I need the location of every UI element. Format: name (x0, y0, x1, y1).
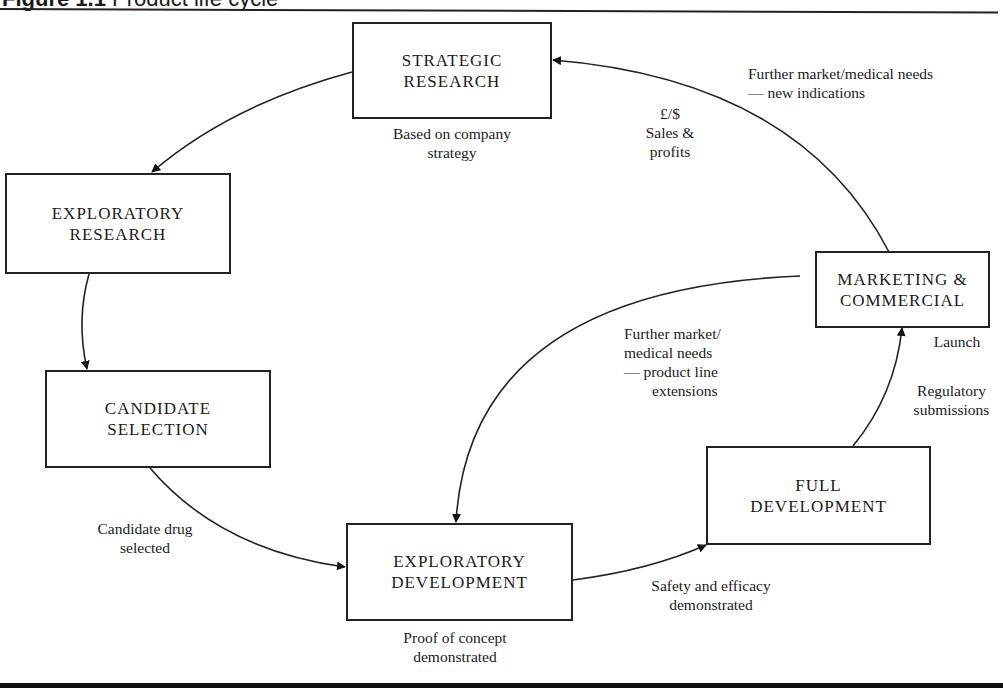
node-strategic-research: STRATEGIC RESEARCH (352, 22, 552, 119)
annotation-line: Launch (922, 332, 992, 351)
annotation-proof-of-concept: Proof of concept demonstrated (380, 628, 530, 666)
node-candidate-selection: CANDIDATE SELECTION (45, 370, 271, 468)
annotation-regulatory-submissions: Regulatory submissions (900, 381, 1003, 419)
annotation-line: Regulatory (900, 381, 1003, 400)
annotation-company-strategy: Based on company strategy (372, 124, 532, 162)
annotation-safety-efficacy: Safety and efficacy demonstrated (636, 576, 786, 614)
annotation-line: £/$ (640, 104, 700, 123)
node-label: STRATEGIC (402, 50, 503, 71)
annotation-line: extensions (624, 381, 721, 400)
annotation-line: — product line (624, 362, 721, 381)
annotation-line: demonstrated (636, 595, 786, 614)
node-label: CANDIDATE (105, 398, 211, 419)
annotation-new-indications: Further market/medical needs — new indic… (748, 64, 933, 102)
arrow-full-to-marketing (853, 328, 902, 446)
annotation-launch: Launch (922, 332, 992, 351)
annotation-sales-profits: £/$ Sales & profits (640, 104, 700, 161)
annotation-product-line-extensions: Further market/ medical needs — product … (624, 324, 721, 400)
node-label: EXPLORATORY (52, 203, 185, 224)
node-label: SELECTION (107, 419, 209, 440)
annotation-line: Candidate drug (75, 519, 215, 538)
annotation-line: Based on company (372, 124, 532, 143)
bottom-rule (0, 683, 1003, 688)
node-label: RESEARCH (404, 71, 501, 92)
annotation-candidate-drug-selected: Candidate drug selected (75, 519, 215, 557)
annotation-line: submissions (900, 400, 1003, 419)
node-label: FULL (795, 475, 842, 496)
node-label: MARKETING & (837, 269, 967, 290)
annotation-line: demonstrated (380, 647, 530, 666)
node-label: COMMERCIAL (840, 290, 965, 311)
node-label: DEVELOPMENT (391, 572, 528, 593)
node-full-development: FULL DEVELOPMENT (706, 446, 931, 545)
node-label: EXPLORATORY (393, 551, 526, 572)
annotation-line: — new indications (748, 83, 933, 102)
annotation-line: Proof of concept (380, 628, 530, 647)
annotation-line: selected (75, 538, 215, 557)
node-label: DEVELOPMENT (750, 496, 887, 517)
annotation-line: Safety and efficacy (636, 576, 786, 595)
arrow-exploratory-development-to-full (573, 545, 706, 580)
annotation-line: Further market/medical needs (748, 64, 933, 83)
annotation-line: Further market/ (624, 324, 721, 343)
node-label: RESEARCH (70, 224, 167, 245)
node-exploratory-research: EXPLORATORY RESEARCH (5, 173, 231, 274)
annotation-line: strategy (372, 143, 532, 162)
annotation-line: medical needs (624, 343, 721, 362)
node-marketing-commercial: MARKETING & COMMERCIAL (815, 251, 990, 328)
arrow-strategic-to-exploratory-research (152, 72, 352, 172)
annotation-line: profits (640, 142, 700, 161)
node-exploratory-development: EXPLORATORY DEVELOPMENT (346, 523, 573, 621)
annotation-line: Sales & (640, 123, 700, 142)
arrow-exploratory-research-to-candidate (82, 274, 89, 369)
